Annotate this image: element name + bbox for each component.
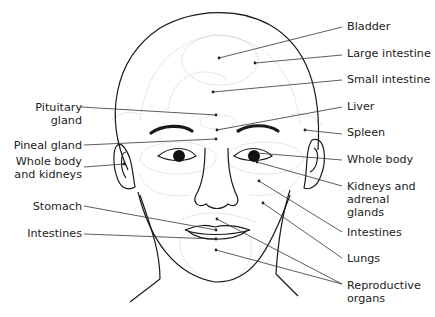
- shoulder-left: [130, 279, 160, 302]
- leader-lines: [81, 27, 342, 284]
- label-reproductive-organs: Reproductive organs: [347, 279, 421, 305]
- label-spleen: Spleen: [347, 126, 385, 139]
- label-line: gland: [35, 114, 82, 127]
- zone-cheek-right: [250, 175, 300, 195]
- label-line: Whole body: [14, 155, 82, 168]
- eyebrow-left: [151, 126, 192, 133]
- label-line: glands: [347, 206, 416, 219]
- face-map-diagram: Pituitary gland Pineal gland Whole body …: [0, 0, 435, 317]
- label-line: Reproductive: [347, 279, 421, 292]
- leader-small-intestine: [213, 80, 342, 92]
- label-line: Intestines: [347, 226, 402, 239]
- label-intestines-left: Intestines: [27, 227, 82, 240]
- shoulder-right: [276, 274, 298, 296]
- eyebrow-right: [238, 126, 278, 131]
- zone-forehead-outer: [140, 35, 300, 125]
- label-stomach: Stomach: [33, 200, 82, 213]
- zone-chin-left: [180, 238, 200, 275]
- ear-left: [114, 144, 135, 188]
- neck-right: [276, 190, 290, 274]
- eye-right: [234, 149, 272, 163]
- label-pituitary-gland: Pituitary gland: [35, 101, 82, 127]
- label-whole-body: Whole body: [347, 153, 413, 166]
- label-liver: Liver: [347, 100, 374, 113]
- label-line: and kidneys: [14, 168, 82, 181]
- label-whole-body-and-kidneys: Whole body and kidneys: [14, 155, 82, 181]
- label-line: Liver: [347, 100, 374, 113]
- nose: [195, 148, 238, 209]
- zone-bladder: [182, 35, 258, 85]
- leader-pineal: [84, 139, 216, 145]
- zone-small-intestine: [168, 72, 226, 110]
- label-lungs: Lungs: [347, 252, 380, 265]
- label-intestines-right: Intestines: [347, 226, 402, 239]
- label-line: Spleen: [347, 126, 385, 139]
- label-line: Small intestine: [347, 73, 430, 86]
- zone-brow-center: [200, 115, 236, 129]
- leader-pituitary: [81, 107, 216, 115]
- label-line: adrenal: [347, 193, 416, 206]
- label-line: Large intestine: [347, 47, 431, 60]
- label-small-intestine: Small intestine: [347, 73, 430, 86]
- zone-upper-lip: [180, 213, 255, 222]
- label-line: Kidneys and: [347, 180, 416, 193]
- label-pineal-gland: Pineal gland: [14, 139, 82, 152]
- zone-cheek-left: [140, 175, 190, 196]
- leader-intestines-right: [259, 181, 342, 232]
- label-line: Lungs: [347, 252, 380, 265]
- label-line: Whole body: [347, 153, 413, 166]
- label-kidneys-and-adrenal-glands: Kidneys and adrenal glands: [347, 180, 416, 219]
- leader-liver: [217, 107, 342, 130]
- label-line: Pituitary: [35, 101, 82, 114]
- zone-temple-left: [112, 112, 140, 120]
- label-line: organs: [347, 292, 421, 305]
- label-large-intestine: Large intestine: [347, 47, 431, 60]
- label-line: Stomach: [33, 200, 82, 213]
- leader-whole-body-kidneys: [84, 164, 124, 167]
- label-line: Pineal gland: [14, 139, 82, 152]
- leader-whole-body: [257, 153, 342, 160]
- label-bladder: Bladder: [347, 20, 390, 33]
- label-line: Bladder: [347, 20, 390, 33]
- eye-left: [158, 149, 196, 163]
- ear-right: [304, 139, 324, 188]
- label-line: Intestines: [27, 227, 82, 240]
- leader-spleen: [305, 130, 342, 134]
- mouth: [185, 225, 250, 239]
- ear-right-inner: [310, 148, 317, 172]
- leader-reproductive-1: [217, 219, 342, 284]
- leader-large-intestine: [255, 55, 342, 63]
